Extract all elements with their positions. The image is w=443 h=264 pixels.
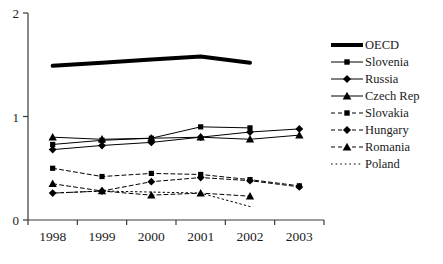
legend-item-slovenia[interactable]: Slovenia (330, 53, 443, 70)
y-tick-label: 1 (13, 110, 20, 125)
y-axis-tick-labels: 012 (13, 6, 20, 228)
legend-item-oecd[interactable]: OECD (330, 36, 443, 53)
x-tick-label: 1998 (39, 229, 66, 244)
marker-triangle (295, 131, 303, 138)
marker-square (344, 59, 349, 64)
legend-label: Russia (364, 71, 398, 87)
legend-swatch-none-icon (330, 156, 364, 172)
legend-swatch-diamond-icon (330, 71, 364, 87)
chart-legend: OECDSloveniaRussiaCzech RepSlovakiaHunga… (330, 36, 443, 172)
axis-lines (28, 13, 324, 220)
marker-diamond (49, 146, 57, 154)
legend-swatch-triangle-icon (330, 139, 364, 155)
legend-item-slovakia[interactable]: Slovakia (330, 104, 443, 121)
marker-triangle (246, 192, 254, 199)
legend-label: Slovenia (364, 54, 409, 70)
series-slovakia (50, 166, 302, 189)
series-oecd (53, 56, 250, 65)
series-hungary (49, 174, 303, 197)
line-chart: 012 199819992000200120022003 (0, 0, 340, 264)
y-tick-label: 2 (13, 6, 20, 21)
series-line (53, 178, 300, 194)
legend-label: Romania (364, 139, 410, 155)
y-tick-label: 0 (13, 213, 20, 228)
x-axis-tick-labels: 199819992000200120022003 (39, 229, 313, 244)
marker-triangle (343, 142, 352, 150)
chart-svg: 012 199819992000200120022003 (0, 0, 340, 264)
x-tick-label: 2001 (187, 229, 214, 244)
marker-triangle (49, 133, 57, 140)
legend-item-czech-rep[interactable]: Czech Rep (330, 87, 443, 104)
legend-item-poland[interactable]: Poland (330, 155, 443, 172)
x-tick-label: 2002 (237, 229, 264, 244)
series-line (53, 135, 300, 139)
y-axis-ticks (23, 13, 28, 220)
legend-item-hungary[interactable]: Hungary (330, 121, 443, 138)
marker-diamond (246, 177, 254, 185)
marker-diamond (343, 125, 351, 133)
series-line (53, 56, 250, 65)
marker-diamond (343, 74, 351, 82)
marker-diamond (197, 174, 205, 182)
marker-diamond (98, 142, 106, 150)
x-tick-label: 2000 (138, 229, 165, 244)
marker-square (99, 174, 104, 179)
marker-diamond (246, 128, 254, 136)
x-tick-label: 2003 (286, 229, 313, 244)
series-russia (49, 125, 303, 154)
marker-square (344, 110, 349, 115)
data-series-layer (49, 56, 304, 206)
legend-label: Slovakia (364, 105, 409, 121)
marker-diamond (147, 178, 155, 186)
legend-item-romania[interactable]: Romania (330, 138, 443, 155)
marker-square (198, 124, 203, 129)
marker-triangle (49, 180, 57, 187)
marker-square (50, 166, 55, 171)
legend-swatch-square-icon (330, 54, 364, 70)
marker-square (149, 171, 154, 176)
legend-label: Hungary (364, 122, 409, 138)
marker-diamond (295, 183, 303, 191)
chart-screenshot: 012 199819992000200120022003 OECDSloveni… (0, 0, 443, 264)
series-line (53, 168, 300, 186)
x-axis-ticks (28, 220, 324, 225)
legend-swatch-square-icon (330, 105, 364, 121)
legend-label: OECD (364, 37, 399, 53)
legend-swatch-triangle-icon (330, 88, 364, 104)
legend-label: Czech Rep (364, 88, 420, 104)
legend-item-russia[interactable]: Russia (330, 70, 443, 87)
legend-swatch-none-icon (330, 37, 364, 53)
legend-label: Poland (364, 156, 400, 172)
x-tick-label: 1999 (89, 229, 116, 244)
series-line (53, 129, 300, 150)
legend-swatch-diamond-icon (330, 122, 364, 138)
